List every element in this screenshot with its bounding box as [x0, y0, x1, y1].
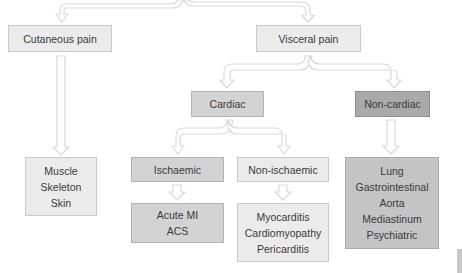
- node-line: Gastrointestinal: [356, 179, 429, 195]
- node-label: Ischaemic: [154, 162, 201, 178]
- node-line: Acute MI: [157, 207, 198, 223]
- arrow-cutaneous-to-sources: [53, 56, 69, 155]
- arrow-nonischaemic-to-causes: [275, 185, 291, 200]
- edge-artifact-bar: [457, 249, 462, 273]
- arrow-root-to-visceral: [184, 0, 314, 22]
- node-visceral-pain: Visceral pain: [256, 25, 361, 52]
- node-line: Pericarditis: [257, 241, 309, 257]
- node-non-cardiac-causes: Lung Gastrointestinal Aorta Mediastinum …: [345, 157, 439, 249]
- node-ischaemic: Ischaemic: [131, 157, 224, 182]
- node-line: Cardiomyopathy: [245, 225, 321, 241]
- node-line: Skeleton: [41, 179, 82, 195]
- arrow-ischaemic-to-causes: [169, 185, 185, 200]
- node-line: ACS: [167, 223, 189, 239]
- node-ischaemic-causes: Acute MI ACS: [131, 203, 224, 243]
- node-label: Cutaneous pain: [23, 31, 97, 47]
- node-non-ischaemic: Non-ischaemic: [237, 157, 329, 182]
- node-label: Visceral pain: [279, 31, 339, 47]
- node-line: Aorta: [379, 195, 404, 211]
- arrow-noncardiac-to-causes: [383, 120, 399, 154]
- node-line: Psychiatric: [367, 227, 418, 243]
- node-line: Lung: [380, 163, 403, 179]
- arrow-visceral-to-noncardiac: [308, 56, 401, 88]
- arrow-root-to-cutaneous: [56, 0, 184, 22]
- node-label: Cardiac: [209, 96, 245, 112]
- node-line: Skin: [51, 195, 71, 211]
- node-line: Myocarditis: [256, 209, 309, 225]
- node-non-cardiac: Non-cardiac: [355, 91, 430, 117]
- arrow-cardiac-to-nonischaemic: [228, 120, 290, 154]
- arrow-cardiac-to-ischaemic: [172, 120, 233, 154]
- node-cardiac: Cardiac: [191, 91, 264, 117]
- node-cutaneous-pain: Cutaneous pain: [8, 25, 112, 52]
- node-non-ischaemic-causes: Myocarditis Cardiomyopathy Pericarditis: [237, 203, 329, 262]
- arrow-visceral-to-cardiac: [220, 56, 312, 88]
- node-label: Non-ischaemic: [248, 162, 317, 178]
- node-label: Non-cardiac: [364, 96, 421, 112]
- node-cutaneous-sources: Muscle Skeleton Skin: [25, 157, 97, 216]
- node-line: Muscle: [44, 163, 77, 179]
- node-line: Mediastinum: [362, 211, 422, 227]
